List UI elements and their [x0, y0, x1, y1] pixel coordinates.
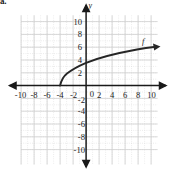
y-tick-label: -10 [74, 145, 85, 155]
x-tick-labels: -10 -8 -6 -4 -2 0 2 4 6 8 10 [15, 89, 156, 100]
x-tick-label: -8 [31, 90, 38, 100]
y-axis-label: y [88, 1, 93, 10]
x-tick-label: 0 [90, 89, 94, 99]
y-tick-label: 4 [78, 55, 83, 65]
y-tick-label: -8 [78, 132, 85, 142]
x-tick-label: 6 [123, 90, 128, 100]
x-tick-label: -6 [44, 90, 52, 100]
figure-part-label: a. [0, 0, 6, 6]
x-axis-arrow-right [160, 82, 167, 88]
x-axis-arrow-left [10, 82, 17, 88]
x-tick-label: 4 [110, 90, 115, 100]
y-tick-label: 2 [78, 68, 82, 78]
x-tick-label: -2 [70, 90, 77, 100]
x-tick-label: 10 [147, 90, 156, 100]
y-tick-label: -6 [78, 119, 86, 129]
y-axis-arrow-down [83, 161, 89, 168]
x-tick-label: -10 [15, 90, 26, 100]
y-tick-label: 10 [73, 17, 82, 27]
axes [10, 5, 167, 167]
x-tick-label: 8 [136, 90, 140, 100]
curve-arrow-right [153, 44, 161, 51]
x-tick-label: 2 [97, 90, 101, 100]
y-tick-label: -4 [78, 106, 86, 116]
graph-figure: a. [0, 0, 173, 170]
y-tick-label: 8 [78, 29, 82, 39]
y-tick-label: -2 [78, 95, 85, 105]
curve-label: f [142, 36, 146, 46]
y-tick-label: 6 [78, 42, 83, 52]
coordinate-plane: y -10 -8 -6 -4 -2 0 2 4 6 8 10 10 8 6 4 … [0, 0, 173, 170]
x-tick-label: -4 [57, 90, 65, 100]
function-curve [60, 44, 160, 86]
